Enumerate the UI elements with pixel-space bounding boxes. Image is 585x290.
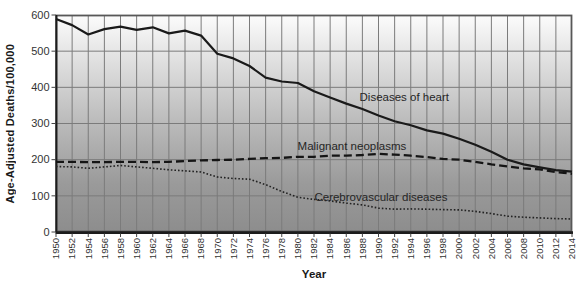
x-tick-label: 1950 <box>50 238 61 259</box>
x-tick-label: 1968 <box>195 238 206 259</box>
x-tick-label: 1986 <box>341 238 352 259</box>
axis-ticks <box>52 15 573 237</box>
x-tick-label: 1972 <box>228 238 239 259</box>
x-tick-label: 1970 <box>212 238 223 259</box>
x-tick-label: 1962 <box>147 238 158 259</box>
x-tick-label: 1966 <box>179 238 190 259</box>
x-tick-label: 1984 <box>324 238 335 259</box>
x-tick-label: 2012 <box>550 238 561 259</box>
x-tick-label: 1964 <box>163 238 174 259</box>
x-tick-label: 1992 <box>389 238 400 259</box>
x-tick-label: 1960 <box>131 238 142 259</box>
x-tick-label: 1998 <box>437 238 448 259</box>
x-tick-label: 2000 <box>453 238 464 259</box>
y-tick-label: 600 <box>31 9 49 21</box>
x-tick-label: 1974 <box>244 238 255 259</box>
x-tick-label: 1994 <box>405 238 416 259</box>
y-tick-labels: 0100200300400500600 <box>31 9 49 238</box>
y-tick-label: 100 <box>31 190 49 202</box>
series-label-diseases-of-heart: Diseases of heart <box>360 91 450 103</box>
y-tick-label: 300 <box>31 117 49 129</box>
x-tick-label: 1952 <box>66 238 77 259</box>
x-tick-label: 1956 <box>99 238 110 259</box>
x-tick-labels: 1950195219541956195819601962196419661968… <box>50 238 577 259</box>
x-tick-label: 2008 <box>518 238 529 259</box>
y-axis-title-text: Age-Adjusted Deaths/100,000 <box>4 44 16 203</box>
series-label-cerebrovascular-diseases: Cerebrovascular diseases <box>314 191 447 203</box>
x-tick-label: 1980 <box>292 238 303 259</box>
x-tick-label: 2014 <box>566 238 577 259</box>
chart: Diseases of heartMalignant neoplasmsCere… <box>0 0 585 290</box>
y-tick-label: 500 <box>31 45 49 57</box>
series-label-malignant-neoplasms: Malignant neoplasms <box>298 140 407 152</box>
x-tick-label: 1988 <box>357 238 368 259</box>
x-tick-label: 2002 <box>470 238 481 259</box>
x-tick-label: 2006 <box>502 238 513 259</box>
x-tick-label: 1976 <box>260 238 271 259</box>
y-tick-label: 200 <box>31 153 49 165</box>
x-tick-label: 1954 <box>83 238 94 259</box>
x-tick-label: 1990 <box>373 238 384 259</box>
x-tick-label: 2004 <box>486 238 497 259</box>
x-tick-label: 1982 <box>308 238 319 259</box>
x-tick-label: 1978 <box>276 238 287 259</box>
y-tick-label: 400 <box>31 81 49 93</box>
chart-canvas: Diseases of heartMalignant neoplasmsCere… <box>0 0 585 290</box>
x-tick-label: 2010 <box>534 238 545 259</box>
x-tick-label: 1996 <box>421 238 432 259</box>
y-tick-label: 0 <box>43 226 49 238</box>
x-tick-label: 1958 <box>115 238 126 259</box>
y-axis-title: Age-Adjusted Deaths/100,000 <box>2 15 18 232</box>
x-axis-title: Year <box>56 268 572 280</box>
